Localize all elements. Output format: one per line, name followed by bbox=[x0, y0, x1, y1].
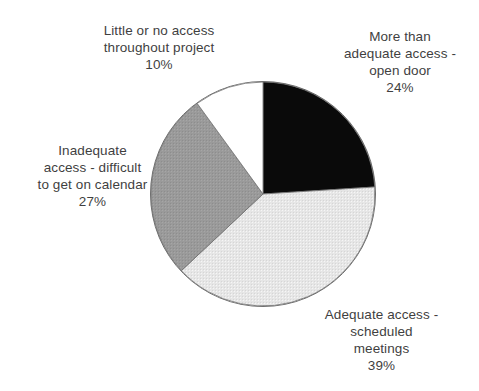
pie-chart-figure: Little or no access throughout project 1… bbox=[0, 0, 479, 391]
pie-label-more-than-adequate-access: More than adequate access - open door 24… bbox=[330, 28, 470, 96]
pie-label-inadequate-access: Inadequate access - difficult to get on … bbox=[10, 142, 175, 210]
pie-slice-more-than-adequate[interactable] bbox=[263, 82, 375, 194]
pie-label-little-or-no-access: Little or no access throughout project 1… bbox=[64, 22, 254, 73]
pie-label-adequate-access: Adequate access - scheduled meetings 39% bbox=[294, 306, 469, 374]
